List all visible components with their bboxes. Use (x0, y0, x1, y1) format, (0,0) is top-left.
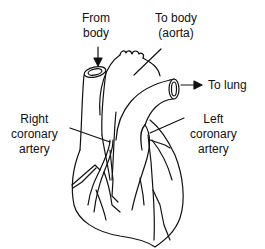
label-to-body-aorta: To body (aorta) (155, 11, 197, 41)
right-coronary-vessels (70, 128, 120, 220)
label-right-coronary-artery: Right coronary artery (11, 112, 58, 157)
to-lung-arrow (181, 81, 202, 89)
label-from-body: From body (82, 11, 110, 41)
heart-diagram: From body To body (aorta) To lung Right … (0, 0, 265, 249)
left-coronary-vessels (132, 118, 184, 240)
aorta (100, 49, 161, 115)
heart-outline (72, 112, 183, 247)
label-left-coronary-artery: Left coronary artery (190, 112, 237, 157)
label-to-lung: To lung (208, 78, 247, 93)
from-body-arrow (94, 47, 102, 66)
